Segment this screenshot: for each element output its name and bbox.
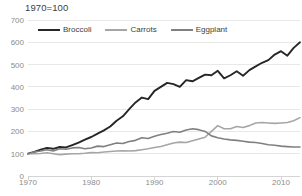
y-axis-label: 200 — [0, 127, 24, 136]
y-axis-tick-labels: 0100200300400500600700 — [0, 20, 26, 176]
plot-svg — [28, 20, 300, 176]
y-axis-label: 700 — [0, 16, 24, 25]
gridlines — [28, 20, 300, 176]
series-lines — [28, 42, 300, 154]
series-line-eggplant — [28, 129, 300, 154]
y-axis-label: 400 — [0, 82, 24, 91]
x-axis-label: 2000 — [209, 178, 227, 187]
x-axis-label: 1990 — [146, 178, 164, 187]
y-axis-label: 100 — [0, 149, 24, 158]
y-axis-label: 300 — [0, 105, 24, 114]
x-axis-label: 1970 — [19, 178, 37, 187]
plot-area — [28, 20, 300, 176]
x-axis-label: 2010 — [272, 178, 290, 187]
chart-container: 1970=100 BroccoliCarrotsEggplant 0100200… — [0, 0, 302, 196]
x-axis-tick-labels: 19701980199020002010 — [28, 178, 300, 194]
x-axis-label: 1980 — [82, 178, 100, 187]
y-axis-label: 500 — [0, 60, 24, 69]
chart-title: 1970=100 — [25, 2, 68, 13]
y-axis-label: 600 — [0, 38, 24, 47]
series-line-broccoli — [28, 42, 300, 153]
